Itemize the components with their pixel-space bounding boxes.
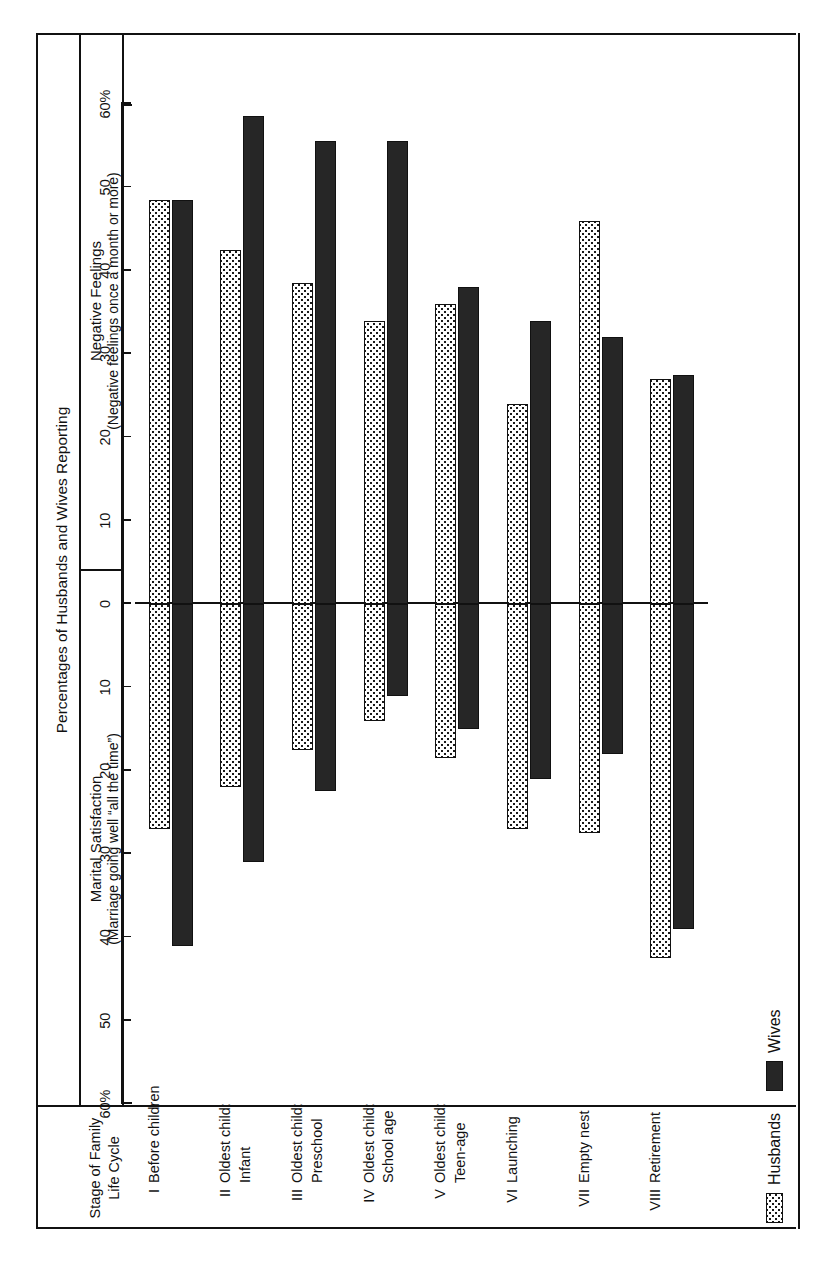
bar-husbands-negative-feelings [149,200,170,604]
axis-tick [121,769,131,771]
stage-name-line: Teen-age [451,1103,471,1183]
axis-tick-label: 60% [97,84,113,124]
stage-name: Oldest child:Preschool [288,1103,327,1183]
legend-label-wives: Wives [766,1009,784,1053]
axis-tick-label: 20 [97,751,113,791]
stage-name: Oldest child:Teen-age [431,1103,470,1183]
bar-husbands-negative-feelings [650,379,671,604]
axis-tick [121,603,131,605]
stage-name: Oldest child:Infant [216,1103,255,1183]
axis-tick [121,186,131,188]
axis-tick [121,519,131,521]
axis-tick-label: 50 [97,167,113,207]
stage-name: Before children [145,1085,165,1183]
bar-husbands-negative-feelings [220,250,241,604]
axis-tick [121,436,131,438]
axis-tick-label: 10 [97,667,113,707]
bar-husbands-marital-satisfaction [507,604,528,829]
axis-end-cap [121,104,132,106]
bar-wives-marital-satisfaction [673,604,694,929]
bar-husbands-negative-feelings [292,283,313,604]
stage-name-line: Oldest child: [431,1103,451,1183]
stage-name: Empty nest [575,1110,595,1183]
axis-tick [121,853,131,855]
axis-tick-label: 30 [97,334,113,374]
stage-numeral: I [145,1189,165,1223]
bar-wives-negative-feelings [172,200,193,604]
legend-swatch-wives [766,1061,783,1091]
axis-tick [121,936,131,938]
bar-wives-negative-feelings [673,375,694,604]
axis-tick-label: 20 [97,417,113,457]
stage-name-line: Before children [145,1085,165,1183]
stage-name: Oldest child:School age [360,1103,399,1183]
bar-wives-marital-satisfaction [530,604,551,779]
rotated-page: Percentages of Husbands and Wives Report… [0,0,831,1263]
stage-numeral: IV [360,1189,380,1223]
axis-tick-label: 0 [97,584,113,624]
bar-wives-marital-satisfaction [387,604,408,696]
stage-name-line: Retirement [646,1112,666,1183]
bar-wives-negative-feelings [458,287,479,604]
stage-name-line: Oldest child: [360,1103,380,1183]
stage-name-line: Preschool [308,1103,328,1183]
bar-husbands-marital-satisfaction [220,604,241,787]
bar-wives-negative-feelings [387,142,408,605]
stage-numeral: V [431,1189,451,1223]
axis-tick [121,686,131,688]
bar-wives-negative-feelings [243,117,264,605]
axis-tick-label: 40 [97,251,113,291]
bar-husbands-marital-satisfaction [149,604,170,829]
stage-name-line: Oldest child: [216,1103,236,1183]
spanning-header: Percentages of Husbands and Wives Report… [52,33,72,1107]
axis-tick-label: 10 [97,501,113,541]
bar-wives-marital-satisfaction [602,604,623,754]
legend-swatch-husbands [766,1193,783,1223]
plot-area: 60%50403020100102030405060% [135,104,708,1104]
frame-rule-outer-right [36,33,796,35]
legend-label-husbands: Husbands [766,1113,784,1185]
stage-numeral: VI [503,1189,523,1223]
stage-name-line: Empty nest [575,1110,595,1183]
stage-name-line: School age [379,1103,399,1183]
axis-tick [121,1019,131,1021]
axis-tick [121,269,131,271]
axis-tick-label: 50 [97,1001,113,1041]
bar-wives-marital-satisfaction [243,604,264,862]
axis-tick [121,103,131,105]
bar-husbands-negative-feelings [364,321,385,604]
axis-tick-label: 60% [97,1084,113,1124]
stage-column-header: Stage of Family Life Cycle [86,1107,124,1229]
axis-tick-label: 30 [97,834,113,874]
bar-husbands-marital-satisfaction [364,604,385,721]
bar-husbands-marital-satisfaction [579,604,600,833]
axis-tick-label: 40 [97,917,113,957]
bar-husbands-negative-feelings [579,221,600,604]
stage-name: Launching [503,1116,523,1183]
axis-tick [121,1103,131,1105]
legend: HusbandsWives [760,803,800,1223]
stage-numeral: VII [575,1189,595,1223]
stage-label-column: IBefore childrenIIOldest child:InfantIII… [135,1107,708,1229]
bar-husbands-marital-satisfaction [650,604,671,958]
bar-wives-negative-feelings [530,321,551,604]
stage-numeral: II [216,1189,236,1223]
bar-husbands-marital-satisfaction [435,604,456,758]
stage-name: Retirement [646,1112,666,1183]
stage-numeral: VIII [646,1189,666,1223]
bar-wives-marital-satisfaction [172,604,193,946]
bar-wives-marital-satisfaction [458,604,479,729]
bar-wives-negative-feelings [315,142,336,605]
bar-husbands-marital-satisfaction [292,604,313,750]
stage-name-line: Launching [503,1116,523,1183]
axis-tick [121,353,131,355]
bar-husbands-negative-feelings [507,404,528,604]
axis-rail [121,104,123,1104]
stage-name-line: Infant [236,1103,256,1183]
bar-wives-negative-feelings [602,337,623,604]
bar-husbands-negative-feelings [435,304,456,604]
stage-name-line: Oldest child: [288,1103,308,1183]
stage-numeral: III [288,1189,308,1223]
bar-wives-marital-satisfaction [315,604,336,792]
figure-root: Percentages of Husbands and Wives Report… [0,0,831,1263]
